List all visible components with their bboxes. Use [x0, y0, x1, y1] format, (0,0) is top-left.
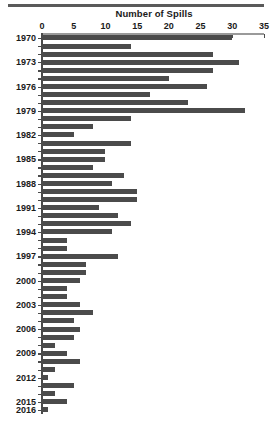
x-tick-label: 5	[71, 21, 76, 32]
y-tick-label-2006: 2006	[0, 325, 36, 334]
y-tick-label-1979: 1979	[0, 106, 36, 115]
y-tick-label-2009: 2009	[0, 349, 36, 358]
x-tick-label: 25	[196, 21, 206, 32]
y-tick-label-2003: 2003	[0, 300, 36, 309]
y-tick-label-1982: 1982	[0, 131, 36, 140]
x-tick-label: 20	[164, 21, 174, 32]
y-tick-label-2000: 2000	[0, 276, 36, 285]
x-tick-label: 35	[259, 21, 269, 32]
y-tick-label-1985: 1985	[0, 155, 36, 164]
y-tick-label-1988: 1988	[0, 179, 36, 188]
y-tick-label-1973: 1973	[0, 58, 36, 67]
y-tick-label-1994: 1994	[0, 228, 36, 237]
top-rule-divider	[8, 4, 264, 7]
y-axis-tick-labels: 1970197319761979198219851988199119941997…	[0, 34, 272, 414]
y-tick-label-2012: 2012	[0, 373, 36, 382]
y-tick-label-1970: 1970	[0, 34, 36, 43]
y-tick-label-1997: 1997	[0, 252, 36, 261]
x-tick-label: 30	[227, 21, 237, 32]
y-tick-label-2016: 2016	[0, 405, 36, 414]
chart-title: Number of Spills	[42, 8, 266, 19]
x-tick-label: 10	[100, 21, 110, 32]
y-tick-label-1991: 1991	[0, 203, 36, 212]
y-tick-label-1976: 1976	[0, 82, 36, 91]
chart-figure: Number of Spills 05101520253035 19701973…	[0, 0, 272, 426]
x-tick-label: 15	[132, 21, 142, 32]
x-tick-label: 0	[39, 21, 44, 32]
